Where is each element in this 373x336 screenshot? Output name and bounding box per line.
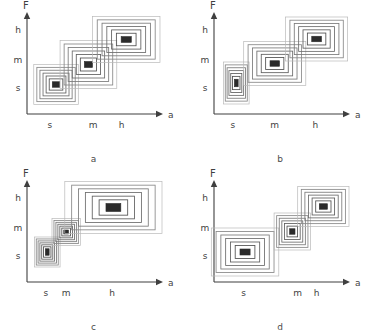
- y-tick-label-m: m: [201, 55, 210, 65]
- y-axis-label: F: [23, 0, 29, 11]
- panel-grid: FasmhsmhaFasmhsmhbFasmhsmhcFasmhsmhd: [0, 0, 373, 336]
- panel-caption-d: d: [187, 322, 373, 332]
- y-tick-label-s: s: [203, 251, 208, 261]
- high-cluster: [65, 182, 162, 234]
- x-tick-label-s: s: [231, 120, 236, 130]
- panel-b: Fasmhsmhb: [187, 0, 373, 168]
- x-tick-label-h: h: [119, 120, 125, 130]
- small-cluster: [223, 62, 249, 104]
- cluster-core: [106, 204, 121, 212]
- x-tick-label-s: s: [44, 288, 49, 298]
- high-cluster: [286, 17, 348, 61]
- x-axis-arrow-icon: [343, 111, 350, 117]
- cluster-core: [234, 79, 238, 87]
- x-axis-label: a: [355, 110, 361, 120]
- x-axis-label: a: [168, 110, 174, 120]
- x-tick-label-m: m: [270, 120, 279, 130]
- y-axis-arrow-icon: [24, 180, 30, 187]
- y-tick-label-s: s: [16, 83, 21, 93]
- y-tick-label-h: h: [202, 25, 208, 35]
- y-tick-label-m: m: [14, 223, 23, 233]
- panel-a: Fasmhsmha: [0, 0, 187, 168]
- x-axis-arrow-icon: [156, 279, 163, 285]
- y-tick-label-h: h: [15, 193, 21, 203]
- cluster-core: [45, 249, 49, 256]
- x-tick-label-s: s: [48, 120, 53, 130]
- y-tick-label-h: h: [202, 193, 208, 203]
- y-axis-label: F: [23, 168, 29, 179]
- y-axis-label: F: [210, 168, 216, 179]
- cluster-core: [121, 37, 131, 43]
- panel-c: Fasmhsmhc: [0, 168, 187, 336]
- y-tick-label-m: m: [14, 55, 23, 65]
- high-cluster: [298, 187, 349, 227]
- cluster-core: [290, 229, 295, 235]
- cluster-core: [312, 36, 322, 42]
- medium-cluster: [52, 219, 80, 246]
- y-axis-arrow-icon: [211, 180, 217, 187]
- x-tick-label-m: m: [293, 288, 302, 298]
- panel-caption-a: a: [0, 154, 187, 164]
- small-cluster: [211, 228, 278, 276]
- cluster-core: [270, 61, 279, 67]
- x-axis-arrow-icon: [343, 279, 350, 285]
- x-tick-label-m: m: [62, 288, 71, 298]
- medium-cluster: [244, 42, 306, 86]
- y-axis-arrow-icon: [24, 12, 30, 19]
- cluster-core: [319, 204, 327, 210]
- x-axis-arrow-icon: [156, 111, 163, 117]
- medium-cluster: [60, 41, 117, 89]
- y-tick-label-s: s: [16, 251, 21, 261]
- panel-d: Fasmhsmhd: [187, 168, 373, 336]
- y-axis-arrow-icon: [211, 12, 217, 19]
- x-axis-label: a: [355, 278, 361, 288]
- x-tick-label-m: m: [89, 120, 98, 130]
- x-tick-label-s: s: [241, 288, 246, 298]
- x-tick-label-h: h: [109, 288, 115, 298]
- small-cluster: [34, 65, 79, 105]
- y-axis-label: F: [210, 0, 216, 11]
- x-axis-label: a: [168, 278, 174, 288]
- panel-caption-c: c: [0, 322, 187, 332]
- y-tick-label-h: h: [15, 25, 21, 35]
- y-tick-label-s: s: [203, 83, 208, 93]
- panel-caption-b: b: [187, 154, 373, 164]
- cluster-core: [84, 62, 92, 68]
- x-tick-label-h: h: [314, 288, 320, 298]
- x-tick-label-h: h: [312, 120, 318, 130]
- y-tick-label-m: m: [201, 223, 210, 233]
- cluster-core: [240, 249, 250, 255]
- high-cluster: [92, 17, 160, 63]
- cluster-core: [52, 82, 59, 88]
